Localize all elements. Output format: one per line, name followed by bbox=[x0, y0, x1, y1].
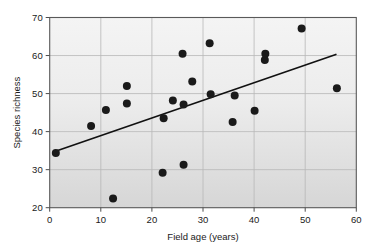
y-tick-label: 60 bbox=[32, 50, 43, 61]
data-point bbox=[207, 90, 215, 98]
scatter-plot: 0102030405060 203040506070 Field age (ye… bbox=[0, 0, 374, 250]
x-tick-label: 0 bbox=[47, 214, 52, 225]
data-point bbox=[109, 195, 117, 203]
data-point bbox=[231, 91, 239, 99]
data-point bbox=[261, 50, 269, 58]
y-axis-ticks bbox=[46, 18, 50, 208]
data-point bbox=[206, 39, 214, 47]
data-point bbox=[179, 50, 187, 58]
data-point bbox=[333, 84, 341, 92]
data-point bbox=[123, 99, 131, 107]
data-point bbox=[169, 96, 177, 104]
data-point bbox=[159, 169, 167, 177]
y-tick-label: 70 bbox=[32, 12, 43, 23]
y-tick-label: 40 bbox=[32, 126, 43, 137]
y-axis-tick-labels: 203040506070 bbox=[32, 12, 43, 213]
x-tick-label: 60 bbox=[351, 214, 362, 225]
data-point bbox=[52, 149, 60, 157]
data-point bbox=[160, 114, 168, 122]
x-tick-label: 40 bbox=[249, 214, 260, 225]
data-point bbox=[298, 25, 306, 33]
x-tick-label: 10 bbox=[96, 214, 107, 225]
x-axis-title: Field age (years) bbox=[167, 231, 238, 242]
data-point bbox=[180, 101, 188, 109]
data-point bbox=[87, 122, 95, 130]
data-point bbox=[123, 82, 131, 90]
y-axis-title: Species richness bbox=[11, 76, 22, 148]
data-point bbox=[229, 118, 237, 126]
x-tick-label: 50 bbox=[300, 214, 311, 225]
y-tick-label: 20 bbox=[32, 202, 43, 213]
x-axis-ticks bbox=[50, 208, 357, 212]
x-tick-label: 30 bbox=[198, 214, 209, 225]
data-point bbox=[180, 161, 188, 169]
chart-figure: 0102030405060 203040506070 Field age (ye… bbox=[0, 0, 374, 250]
data-point bbox=[102, 106, 110, 114]
data-point bbox=[251, 107, 259, 115]
x-tick-label: 20 bbox=[147, 214, 158, 225]
y-tick-label: 50 bbox=[32, 88, 43, 99]
y-tick-label: 30 bbox=[32, 164, 43, 175]
data-point bbox=[188, 77, 196, 85]
x-axis-tick-labels: 0102030405060 bbox=[47, 214, 362, 225]
